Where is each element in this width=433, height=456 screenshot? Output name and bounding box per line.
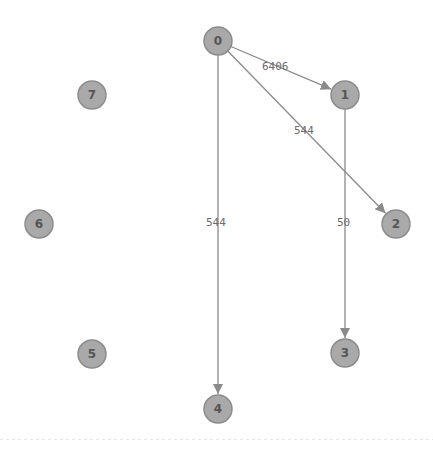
node-7[interactable]: 7 [78, 81, 106, 109]
edge-weight-label: 50 [337, 216, 350, 229]
node-label: 2 [392, 217, 400, 231]
node-4[interactable]: 4 [204, 395, 232, 423]
edge-1-to-3: 50 [337, 109, 350, 338]
graph-canvas: 640654454450 01234567 [0, 0, 433, 456]
node-5[interactable]: 5 [78, 340, 106, 368]
node-2[interactable]: 2 [382, 210, 410, 238]
node-3[interactable]: 3 [331, 339, 359, 367]
edge-0-to-1: 6406 [231, 46, 331, 89]
node-label: 1 [341, 88, 349, 102]
edge-weight-label: 544 [206, 216, 226, 229]
edge-0-to-4: 544 [206, 55, 226, 394]
node-label: 5 [88, 347, 96, 361]
node-label: 6 [35, 217, 43, 231]
node-1[interactable]: 1 [331, 81, 359, 109]
node-6[interactable]: 6 [25, 210, 53, 238]
node-label: 3 [341, 346, 349, 360]
edge-weight-label: 6406 [262, 60, 289, 73]
node-label: 4 [214, 402, 222, 416]
node-label: 7 [88, 88, 96, 102]
node-0[interactable]: 0 [204, 27, 232, 55]
edge-0-to-2: 544 [228, 51, 386, 213]
edge-weight-label: 544 [294, 124, 314, 137]
node-label: 0 [214, 34, 222, 48]
